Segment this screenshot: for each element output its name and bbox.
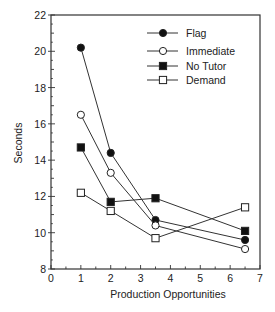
legend-label: No Tutor <box>186 60 227 72</box>
open-circle-marker-icon <box>159 47 166 54</box>
x-tick-label: 7 <box>257 272 263 284</box>
legend-item: Flag <box>147 27 207 39</box>
filled-circle-marker-icon <box>107 149 114 156</box>
open-square-marker-icon <box>77 189 84 196</box>
x-tick-label: 0 <box>48 272 54 284</box>
filled-square-marker-icon <box>241 227 248 234</box>
x-axis-title: Production Opportunities <box>110 288 226 300</box>
x-tick-label: 3 <box>138 272 144 284</box>
x-tick-label: 2 <box>108 272 114 284</box>
filled-square-marker-icon <box>159 62 166 69</box>
open-circle-marker-icon <box>152 222 159 229</box>
line-chart: 01234567810121416182022 FlagImmediateNo … <box>0 0 275 312</box>
x-tick-label: 1 <box>78 272 84 284</box>
legend-label: Demand <box>186 74 226 86</box>
filled-circle-marker-icon <box>241 236 248 243</box>
legend: FlagImmediateNo TutorDemand <box>147 27 235 86</box>
legend-item: Demand <box>147 74 226 86</box>
filled-circle-marker-icon <box>77 44 84 51</box>
y-tick-label: 16 <box>34 118 46 130</box>
y-tick-label: 8 <box>40 263 46 275</box>
y-tick-label: 18 <box>34 82 46 94</box>
series-line <box>81 193 245 238</box>
legend-label: Immediate <box>186 45 235 57</box>
y-axis-title: Seconds <box>12 123 24 164</box>
filled-circle-marker-icon <box>159 29 166 36</box>
filled-square-marker-icon <box>107 198 114 205</box>
x-tick-label: 6 <box>227 272 233 284</box>
open-square-marker-icon <box>107 207 114 214</box>
series-line <box>81 147 245 231</box>
y-tick-label: 20 <box>34 45 46 57</box>
open-circle-marker-icon <box>77 111 84 118</box>
x-tick-label: 5 <box>197 272 203 284</box>
chart-canvas: 01234567810121416182022 FlagImmediateNo … <box>0 0 275 312</box>
filled-square-marker-icon <box>77 144 84 151</box>
legend-label: Flag <box>186 27 207 39</box>
legend-item: Immediate <box>147 45 235 57</box>
open-square-marker-icon <box>152 235 159 242</box>
open-circle-marker-icon <box>107 169 114 176</box>
series-demand <box>77 189 248 242</box>
series-immediate <box>77 111 248 252</box>
x-tick-label: 4 <box>168 272 174 284</box>
y-tick-label: 10 <box>34 227 46 239</box>
filled-square-marker-icon <box>152 195 159 202</box>
y-tick-label: 14 <box>34 154 46 166</box>
y-tick-label: 12 <box>34 190 46 202</box>
y-tick-label: 22 <box>34 9 46 21</box>
legend-item: No Tutor <box>147 60 227 72</box>
open-square-marker-icon <box>241 204 248 211</box>
open-circle-marker-icon <box>241 245 248 252</box>
open-square-marker-icon <box>159 76 166 83</box>
